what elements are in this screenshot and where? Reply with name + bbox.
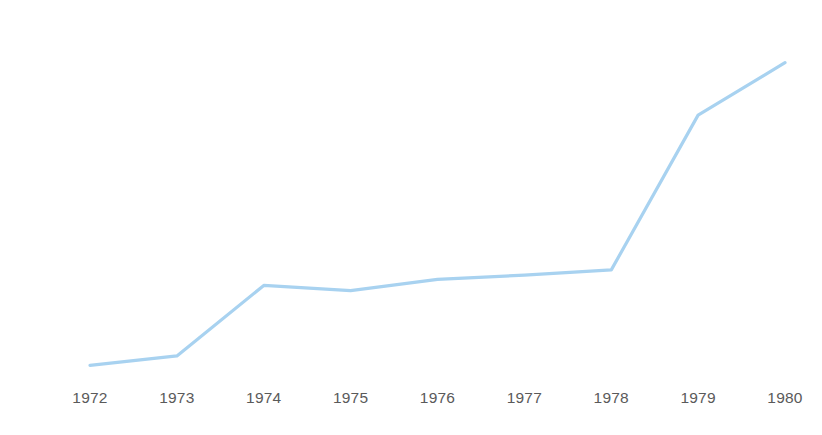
- plot-area: [0, 0, 822, 435]
- series-svg: [0, 0, 822, 435]
- data-series-line: [90, 63, 785, 366]
- line-chart: 0510152025303540 19721973197419751976197…: [0, 0, 822, 435]
